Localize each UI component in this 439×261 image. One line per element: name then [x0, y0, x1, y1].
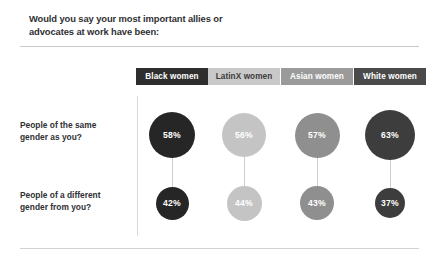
- column-header-chip[interactable]: Black women: [136, 68, 208, 85]
- connector-line: [390, 160, 391, 188]
- connector-line: [172, 158, 173, 187]
- data-bubble[interactable]: 43%: [300, 186, 334, 220]
- bubble-value-label: 63%: [381, 131, 399, 140]
- data-bubble[interactable]: 56%: [222, 113, 266, 157]
- bubble-value-label: 44%: [235, 199, 253, 208]
- survey-bubble-chart: Would you say your most important allies…: [0, 0, 439, 261]
- data-bubble[interactable]: 44%: [227, 186, 262, 221]
- data-bubble[interactable]: 42%: [156, 187, 189, 220]
- chart-title-block: Would you say your most important allies…: [29, 12, 359, 38]
- row-label: People of a different gender from you?: [20, 190, 132, 213]
- bubble-value-label: 43%: [308, 199, 326, 208]
- column-header-chip[interactable]: White women: [354, 68, 426, 85]
- bubble-value-label: 37%: [381, 199, 399, 208]
- row-label: People of the same gender as you?: [20, 120, 132, 143]
- column-header-chip[interactable]: LatinX women: [208, 68, 280, 85]
- column-header-chip[interactable]: Asian women: [281, 68, 353, 85]
- connector-line: [317, 157, 318, 186]
- footer-divider-rule: [20, 248, 419, 249]
- connector-line: [244, 157, 245, 186]
- data-bubble[interactable]: 58%: [149, 112, 195, 158]
- page-title: Would you say your most important allies…: [29, 12, 359, 38]
- bubble-value-label: 56%: [235, 131, 253, 140]
- data-bubble[interactable]: 57%: [295, 113, 340, 158]
- row-label-divider: [137, 96, 138, 236]
- bubble-value-label: 57%: [308, 131, 326, 140]
- header-divider-rule: [20, 46, 419, 47]
- data-bubble[interactable]: 63%: [365, 110, 415, 160]
- bubble-value-label: 42%: [163, 199, 181, 208]
- bubble-value-label: 58%: [163, 131, 181, 140]
- data-bubble[interactable]: 37%: [375, 188, 405, 218]
